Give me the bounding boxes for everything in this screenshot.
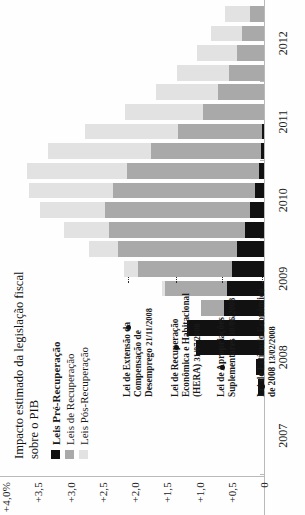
bar-column [125,104,264,120]
annotation-leader-line [262,277,263,283]
bar-segment-pre [255,183,264,199]
bar-segment-pos [40,202,105,218]
bar-segment-pre [261,143,264,159]
bar-segment-rec [105,202,250,218]
bar-segment-pre [237,241,264,257]
bar-segment-rec [127,163,259,179]
legend-label-pre-recovery: Leis Pré-Recuperação [50,341,62,445]
legend-label-post-recovery: Leis Pós-Recuperação [78,347,90,445]
bar-column [85,124,264,140]
bar-column [29,183,264,199]
bar-segment-rec [237,45,264,61]
bar-segment-pos [124,261,138,277]
value-tick-label: +1,0 [194,482,206,503]
annotation-date-2: 31/07/2008 [193,323,202,361]
value-tick-label: +1,5 [161,482,173,503]
bar-column [124,261,264,277]
bar-segment-rec [203,104,264,120]
bar-column [177,65,264,81]
bar-segment-pre [250,202,264,218]
value-tick-label: +2,5 [97,482,109,503]
annotation-leader-line [128,277,129,283]
legend-label-recovery: Leis de Recuperação [64,353,76,445]
year-label-2010: 2010 [276,188,291,212]
bar-column [225,6,264,22]
bar-segment-pre [259,163,264,179]
value-tick-label: +3,5 [32,482,44,503]
bar-column [197,45,264,61]
annotation-unemployment-compensation: Lei de Extensão da Compensação de Desemp… [122,285,155,397]
annotation-marker-dot [220,365,225,370]
bar-segment-pos [29,183,113,199]
annotation-leader-line [222,277,223,283]
rotated-chart-canvas: 0+0,5+1,0+1,5+2,0+2,5+3,0+3,5+4,0% 20072… [0,0,305,515]
bar-segment-pre [262,124,264,140]
bar-segment-pos [89,241,118,257]
year-tick [260,239,265,240]
annotation-date-3: 30/06/2008 [228,298,237,336]
legend-swatch-post-recovery-icon [79,450,88,459]
bar-segment-rec [242,26,264,42]
bar-column [48,143,264,159]
bar-column [27,163,264,179]
bar-segment-rec [250,6,264,22]
annotation-marker-dot [126,325,131,330]
legend: Impacto estimado da legislação fiscal so… [12,263,90,459]
bar-segment-pos [211,26,242,42]
year-tick [260,82,265,83]
bar-segment-rec [138,261,232,277]
bar-segment-rec [218,84,264,100]
bar-column [64,222,264,238]
legend-swatch-recovery-icon [65,450,74,459]
value-tick-label: +0,5 [226,482,238,503]
annotation-leader-line [176,277,177,283]
bar-segment-pos [225,6,250,22]
annotation-supplemental-appropriations: Lei de Apropriações Suplementares 30/06/… [216,285,238,397]
annotation-marker-dot [260,384,265,389]
bar-segment-pos [125,104,202,120]
bar-segment-pos [64,222,109,238]
legend-item-pre: Leis Pré-Recuperação [50,263,62,459]
annotation-hera: Lei de Recuperação Econômica e Habitacio… [170,285,203,397]
year-tick [260,160,265,161]
annotation-date-1: 21/11/2008 [145,308,154,346]
year-label-2011: 2011 [276,110,291,134]
bar-segment-rec [118,241,237,257]
bar-segment-pos [48,143,151,159]
bar-column [40,202,264,218]
annotation-date-4: 13/02/2008 [268,326,277,364]
bar-segment-rec [178,124,262,140]
value-tick-label: +2,0 [129,482,141,503]
bar-column [89,241,264,257]
year-label-2007: 2007 [276,424,291,448]
year-tick [260,474,265,475]
bar-segment-pos [85,124,179,140]
bar-segment-pre [232,261,264,277]
value-tick-label: +4,0% [0,482,12,512]
chart-figure: 0+0,5+1,0+1,5+2,0+2,5+3,0+3,5+4,0% 20072… [0,0,305,515]
bar-segment-pre [245,222,264,238]
bar-segment-rec [151,143,261,159]
bar-segment-rec [109,222,244,238]
bar-segment-rec [229,65,264,81]
bar-segment-pos [197,45,237,61]
legend-swatch-pre-recovery-icon [51,450,60,459]
value-tick-label: 0 [258,482,270,488]
annotation-marker-dot [174,345,179,350]
category-axis-line [264,0,265,515]
bar-column [156,84,264,100]
bar-segment-pos [177,65,229,81]
plot-area: 0+0,5+1,0+1,5+2,0+2,5+3,0+3,5+4,0% 20072… [0,0,305,515]
legend-title: Impacto estimado da legislação fiscal so… [12,263,43,459]
bar-column [211,26,264,42]
value-tick-label: +3,0 [65,482,77,503]
annotation-economic-stimulus-2008: Lei de Estímulo Econômico de 2008 13/02/… [256,285,278,397]
legend-item-post-recovery: Leis Pós-Recuperação [78,263,90,459]
bar-segment-pos [156,84,217,100]
bar-segment-rec [113,183,255,199]
year-label-2012: 2012 [276,31,291,55]
bar-segment-pos [27,163,127,179]
value-axis-line [0,476,265,477]
legend-item-recovery: Leis de Recuperação [64,263,76,459]
